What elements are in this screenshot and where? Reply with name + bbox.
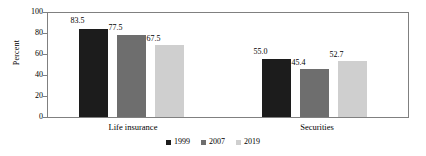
bar-life-insurance-1999[interactable]	[79, 29, 108, 118]
y-tick-label-80: 80	[19, 29, 43, 37]
legend-item-2007[interactable]: 2007	[201, 138, 225, 146]
bar-life-insurance-2019[interactable]	[155, 45, 184, 117]
legend-item-1999[interactable]: 1999	[166, 138, 190, 146]
y-tick-label-20: 20	[19, 92, 43, 100]
legend-label-2019: 2019	[244, 138, 260, 146]
value-label-securities-1999: 55.0	[246, 48, 275, 56]
y-tick-label-100: 100	[19, 8, 43, 16]
value-label-life-insurance-2007: 77.5	[101, 24, 130, 32]
legend-swatch-icon-2007	[201, 140, 206, 145]
legend-item-2019[interactable]: 2019	[236, 138, 260, 146]
legend-label-2007: 2007	[209, 138, 225, 146]
category-label-securities: Securities	[252, 122, 382, 132]
legend: 1999 2007 2019	[0, 138, 426, 146]
legend-swatch-icon-1999	[166, 140, 171, 145]
bar-securities-1999[interactable]	[262, 59, 291, 117]
value-label-life-insurance-1999: 83.5	[63, 17, 92, 25]
legend-label-1999: 1999	[174, 138, 190, 146]
value-label-life-insurance-2019: 67.5	[139, 35, 168, 43]
value-label-securities-2019: 52.7	[322, 51, 351, 59]
y-tick-label-40: 40	[19, 71, 43, 79]
category-label-life-insurance: Life insurance	[68, 122, 198, 132]
bar-life-insurance-2007[interactable]	[117, 35, 146, 117]
bar-securities-2007[interactable]	[300, 69, 329, 117]
bar-securities-2019[interactable]	[338, 61, 367, 117]
y-tick-label-60: 60	[19, 50, 43, 58]
bar-chart: Percent 100 80 60 40 20 0 83.5 77.5 67.5…	[0, 0, 426, 156]
legend-swatch-icon-2019	[236, 140, 241, 145]
value-label-securities-2007: 45.4	[284, 59, 313, 67]
y-tick-label-0: 0	[19, 113, 43, 121]
